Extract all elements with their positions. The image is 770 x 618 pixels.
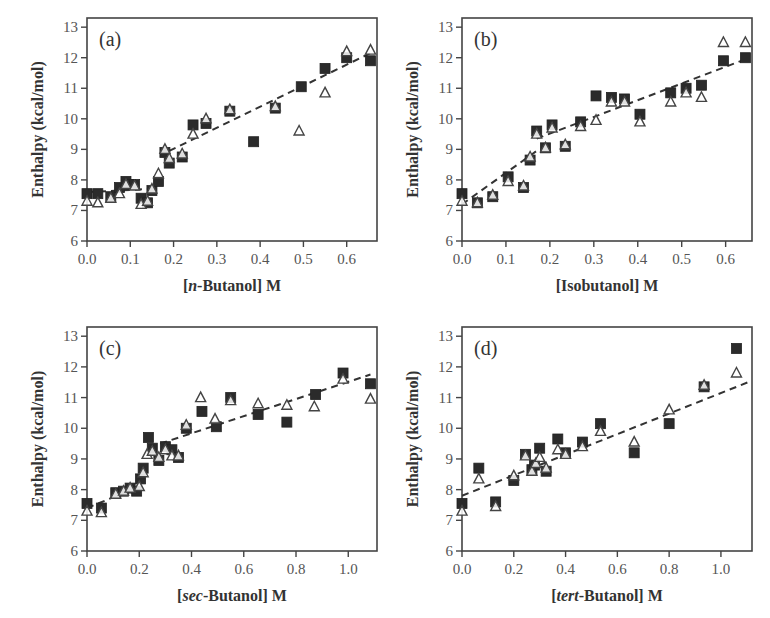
- data-point-triangle: [474, 473, 484, 483]
- data-point-square: [320, 63, 330, 73]
- y-axis-title: Enthalpy (kcal/mol): [404, 371, 422, 507]
- y-tick-label: 9: [71, 451, 79, 467]
- x-tick-label: 1.0: [339, 561, 358, 577]
- data-point-square: [311, 390, 321, 400]
- data-point-square: [474, 463, 484, 473]
- data-point-triangle: [696, 92, 706, 102]
- y-tick-label: 8: [446, 482, 454, 498]
- y-tick-label: 9: [71, 141, 79, 157]
- y-tick-label: 7: [71, 202, 79, 218]
- fit-line: [160, 375, 370, 444]
- scatter-plot: 6789101112130.00.10.20.30.40.50.6Enthalp…: [0, 0, 385, 300]
- x-tick-label: 1.0: [712, 561, 731, 577]
- y-tick-label: 10: [438, 420, 453, 436]
- y-tick-label: 10: [63, 111, 78, 127]
- y-axis-title: Enthalpy (kcal/mol): [404, 61, 422, 197]
- data-point-square: [629, 448, 639, 458]
- fit-line: [462, 381, 752, 496]
- y-tick-label: 11: [64, 80, 78, 96]
- panel-label: (a): [99, 28, 121, 51]
- data-point-triangle: [342, 46, 352, 56]
- data-point-triangle: [629, 437, 639, 447]
- x-tick-label: 0.4: [251, 251, 270, 267]
- fit-line: [169, 53, 370, 151]
- y-tick-label: 8: [71, 482, 79, 498]
- y-tick-label: 10: [63, 420, 78, 436]
- y-tick-label: 13: [438, 19, 453, 35]
- y-tick-label: 8: [446, 172, 454, 188]
- panel-d-tert-butanol: 6789101112130.00.20.40.60.81.0Enthalpy (…: [385, 305, 770, 618]
- y-tick-label: 12: [438, 359, 453, 375]
- x-tick-label: 0.3: [584, 251, 603, 267]
- y-tick-label: 13: [63, 328, 78, 344]
- y-tick-label: 9: [446, 451, 454, 467]
- x-tick-label: 0.6: [234, 561, 253, 577]
- x-tick-label: 0.1: [121, 251, 140, 267]
- x-tick-label: 0.4: [182, 561, 201, 577]
- x-tick-label: 0.2: [164, 251, 183, 267]
- panel-b-isobutanol: 6789101112130.00.10.20.30.40.50.6Enthalp…: [385, 0, 770, 300]
- data-point-triangle: [320, 87, 330, 97]
- plot-frame: [87, 327, 377, 551]
- x-axis-title: [n-Butanol] M: [183, 277, 281, 294]
- x-axis-title: [Isobutanol] M: [556, 277, 659, 294]
- plot-frame: [87, 18, 377, 241]
- data-point-square: [366, 56, 376, 66]
- x-tick-label: 0.2: [130, 561, 149, 577]
- scatter-plot: 6789101112130.00.10.20.30.40.50.6Enthalp…: [385, 0, 770, 300]
- data-point-square: [718, 56, 728, 66]
- x-tick-label: 0.5: [294, 251, 313, 267]
- panel-a-n-butanol: 6789101112130.00.10.20.30.40.50.6Enthalp…: [0, 0, 385, 300]
- data-point-square: [143, 432, 153, 442]
- data-point-square: [296, 82, 306, 92]
- panel-label: (c): [99, 337, 121, 360]
- scatter-plot: 6789101112130.00.20.40.60.81.0Enthalpy (…: [0, 305, 385, 618]
- data-point-triangle: [718, 37, 728, 47]
- plot-frame: [462, 327, 752, 551]
- x-axis-title: [tert-Butanol] M: [551, 587, 663, 604]
- y-tick-label: 6: [446, 543, 454, 559]
- y-tick-label: 13: [63, 19, 78, 35]
- data-point-triangle: [731, 368, 741, 378]
- x-tick-label: 0.8: [287, 561, 306, 577]
- data-point-square: [740, 53, 750, 63]
- plot-frame: [462, 18, 752, 241]
- data-point-square: [197, 406, 207, 416]
- y-tick-label: 12: [63, 359, 78, 375]
- x-tick-label: 0.4: [628, 251, 647, 267]
- x-axis-title: [sec-Butanol] M: [177, 587, 287, 604]
- x-tick-label: 0.0: [78, 251, 97, 267]
- data-point-triangle: [294, 126, 304, 136]
- data-point-triangle: [740, 37, 750, 47]
- data-point-triangle: [366, 45, 376, 55]
- data-point-square: [365, 379, 375, 389]
- y-tick-label: 6: [71, 233, 79, 249]
- y-tick-label: 9: [446, 141, 454, 157]
- y-tick-label: 6: [71, 543, 79, 559]
- x-tick-label: 0.1: [497, 251, 516, 267]
- x-tick-label: 0.0: [78, 561, 97, 577]
- data-point-square: [553, 434, 563, 444]
- data-point-triangle: [591, 115, 601, 125]
- y-tick-label: 12: [438, 50, 453, 66]
- x-tick-label: 0.6: [608, 561, 627, 577]
- panel-label: (d): [474, 337, 497, 360]
- data-point-square: [696, 80, 706, 90]
- y-tick-label: 11: [64, 390, 78, 406]
- x-tick-label: 0.4: [556, 561, 575, 577]
- panel-label: (b): [474, 28, 497, 51]
- data-point-triangle: [210, 414, 220, 424]
- x-tick-label: 0.2: [541, 251, 560, 267]
- data-point-triangle: [196, 392, 206, 402]
- x-tick-label: 0.3: [207, 251, 226, 267]
- y-tick-label: 8: [71, 172, 79, 188]
- data-point-triangle: [253, 398, 263, 408]
- data-point-square: [282, 417, 292, 427]
- x-tick-label: 0.2: [504, 561, 523, 577]
- y-tick-label: 11: [439, 390, 453, 406]
- data-point-square: [249, 137, 259, 147]
- y-tick-label: 7: [446, 202, 454, 218]
- y-tick-label: 7: [71, 512, 79, 528]
- x-tick-label: 0.5: [672, 251, 691, 267]
- x-tick-label: 0.6: [716, 251, 735, 267]
